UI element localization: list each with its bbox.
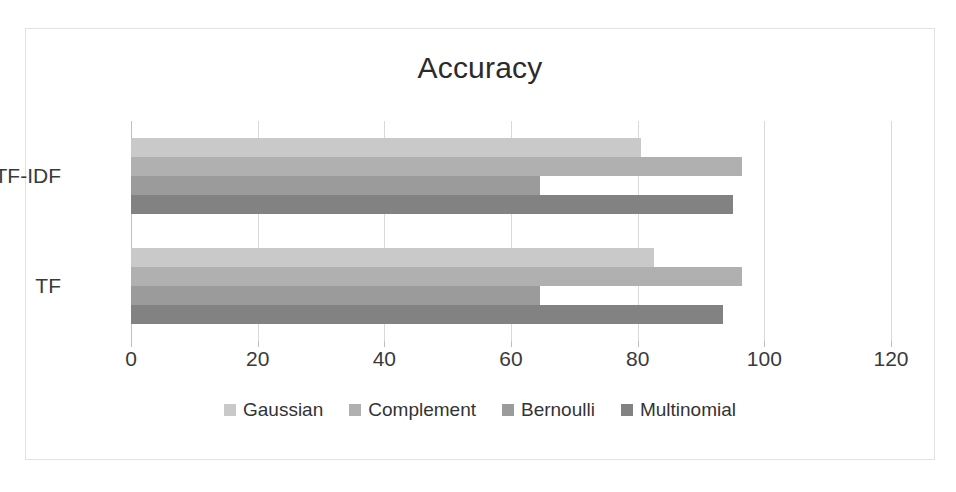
bar [131,195,733,214]
x-axis-tick-label: 120 [873,347,908,371]
bar [131,176,540,195]
x-axis-tick-label: 0 [125,347,137,371]
chart-legend: GaussianComplementBernoulliMultinomial [26,399,934,421]
legend-item-label: Gaussian [243,399,323,421]
gridline [891,121,892,341]
bar-group [131,138,891,214]
x-axis-tick-mark [384,341,385,347]
x-axis-tick-mark [764,341,765,347]
legend-item: Gaussian [224,399,323,421]
bar [131,248,654,267]
legend-item-label: Bernoulli [521,399,595,421]
x-axis-tick-label: 40 [373,347,396,371]
x-axis-tick-label: 80 [626,347,649,371]
x-axis-tick-mark [891,341,892,347]
legend-item-label: Multinomial [640,399,736,421]
y-axis-tick-label: TF-IDF [0,164,61,188]
chart-title: Accuracy [26,51,934,85]
legend-item-label: Complement [368,399,476,421]
legend-item: Multinomial [621,399,736,421]
bar [131,157,742,176]
legend-swatch-icon [502,404,514,416]
x-axis-tick-label: 100 [747,347,782,371]
legend-item: Complement [349,399,476,421]
x-axis-tick-mark [511,341,512,347]
bar [131,267,742,286]
x-axis-tick-mark [258,341,259,347]
x-axis-tick-label: 60 [499,347,522,371]
bar [131,138,641,157]
plot-area [131,121,891,341]
chart-frame: Accuracy 020406080100120 TFTF-IDF Gaussi… [25,28,935,460]
legend-swatch-icon [224,404,236,416]
legend-item: Bernoulli [502,399,595,421]
y-axis-tick-label: TF [35,274,61,298]
legend-swatch-icon [621,404,633,416]
bar [131,305,723,324]
x-axis-tick-label: 20 [246,347,269,371]
bar-group [131,248,891,324]
bar [131,286,540,305]
legend-swatch-icon [349,404,361,416]
x-axis-tick-mark [638,341,639,347]
x-axis-tick-mark [131,341,132,347]
